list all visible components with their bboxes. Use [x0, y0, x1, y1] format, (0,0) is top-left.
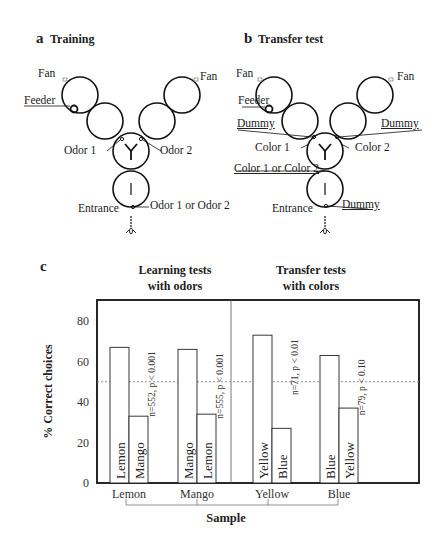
x-tick-label: Mango — [180, 487, 214, 501]
stat-annotation: n=552, p < 0.001 — [147, 351, 157, 417]
y-tick-label: 40 — [77, 395, 89, 409]
bar-label: Lemon — [113, 442, 128, 479]
stat-annotation: n=79, p < 0.10 — [357, 359, 367, 415]
stat-annotation: n=555, p < 0.001 — [215, 353, 225, 419]
bar-label: Yellow — [256, 441, 271, 479]
bar-label: Blue — [323, 454, 338, 479]
x-tick-label: Yellow — [255, 487, 289, 501]
y-tick-label: 80 — [77, 314, 89, 328]
x-tick-label: Lemon — [112, 487, 146, 501]
bar-label: Mango — [132, 442, 147, 479]
bar-label: Lemon — [200, 442, 215, 479]
x-axis-label: Sample — [206, 511, 246, 525]
bar-label: Yellow — [342, 441, 357, 479]
y-tick-label: 60 — [77, 355, 89, 369]
y-tick-label: 20 — [77, 436, 89, 450]
x-tick-label: Blue — [328, 487, 351, 501]
bar-chart: 020406080% Correct choicesLemonMangon=55… — [0, 0, 441, 544]
y-tick-label: 0 — [83, 476, 89, 490]
stat-annotation: n=71, p < 0.01 — [290, 339, 300, 395]
bar-label: Blue — [275, 454, 290, 479]
bar-label: Mango — [181, 442, 196, 479]
y-axis-label: % Correct choices — [41, 344, 55, 439]
